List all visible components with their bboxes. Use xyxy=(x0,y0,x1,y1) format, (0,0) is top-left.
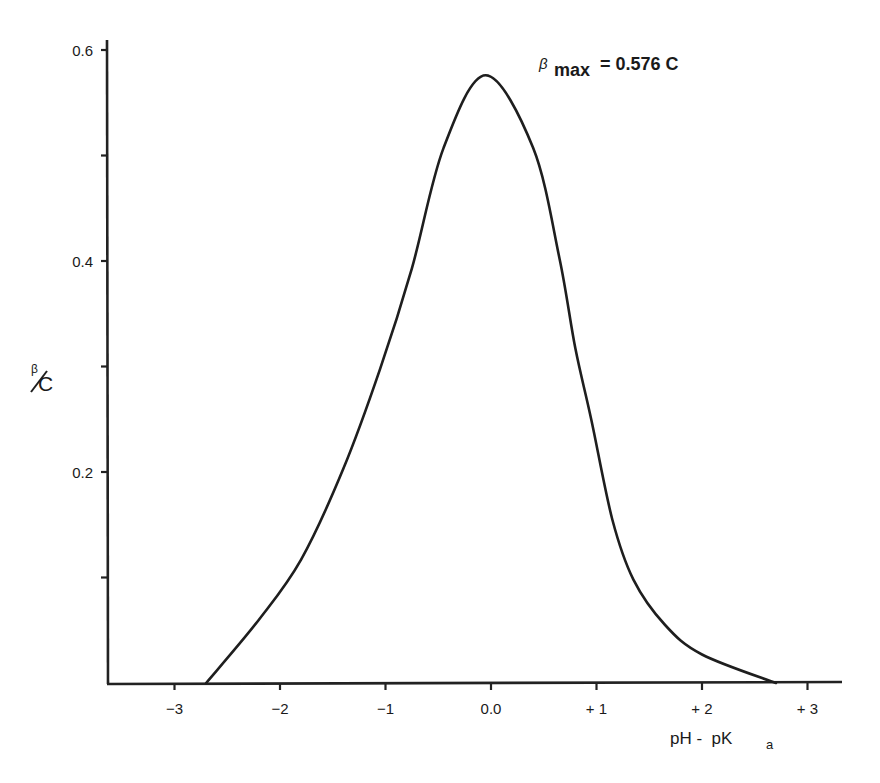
x-tick-label: 0.0 xyxy=(481,700,502,717)
x-tick-label: −1 xyxy=(377,700,394,717)
y-tick-label: 0.2 xyxy=(72,464,93,481)
x-axis-label: pH - pK a xyxy=(670,729,774,752)
x-label-main: pH - pK xyxy=(670,729,733,748)
y-label-denominator: C xyxy=(38,372,53,395)
x-axis-line xyxy=(107,682,842,684)
y-axis-ticks: 0.20.40.6 xyxy=(72,42,108,578)
x-label-subscript: a xyxy=(766,737,774,752)
beta-symbol: β xyxy=(538,55,548,72)
x-tick-label: −2 xyxy=(271,700,288,717)
x-tick-label: + 1 xyxy=(586,700,607,717)
y-label-numerator: β xyxy=(31,362,38,376)
beta-max-subscript: max xyxy=(554,60,590,80)
y-axis-line xyxy=(107,40,108,684)
y-axis-label: β C xyxy=(31,362,53,395)
x-tick-label: + 3 xyxy=(797,700,818,717)
x-tick-label: −3 xyxy=(166,700,183,717)
beta-max-value: = 0.576 C xyxy=(600,54,679,74)
y-tick-label: 0.4 xyxy=(72,253,93,270)
buffer-capacity-chart: 0.20.40.6 −3−2−10.0+ 1+ 2+ 3 β C β max =… xyxy=(0,0,880,783)
buffer-capacity-curve xyxy=(206,75,776,683)
y-tick-label: 0.6 xyxy=(72,42,93,59)
x-tick-label: + 2 xyxy=(691,700,712,717)
beta-max-annotation: β max = 0.576 C xyxy=(538,54,679,80)
x-axis-ticks: −3−2−10.0+ 1+ 2+ 3 xyxy=(166,683,818,717)
